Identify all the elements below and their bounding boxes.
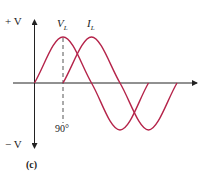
panel-label: (c) <box>26 160 37 170</box>
phase-diagram-figure: + V − V VL IL 90° (c) <box>0 0 205 178</box>
y-axis-top-label: + V <box>5 16 22 27</box>
waveform-plot <box>0 0 205 178</box>
current-curve-label: IL <box>87 18 95 29</box>
voltage-curve-label: VL <box>57 18 68 29</box>
phase-angle-label: 90° <box>55 124 69 134</box>
y-axis-bottom-label: − V <box>5 139 22 150</box>
